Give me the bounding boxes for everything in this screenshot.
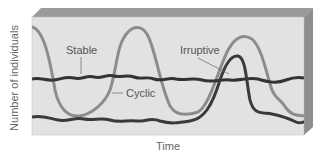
box-side-face (304, 8, 313, 135)
population-growth-diagram: Stable Cyclic Irruptive Time Number of i… (0, 0, 325, 157)
stable-label: Stable (66, 44, 97, 56)
x-axis-label: Time (156, 140, 180, 152)
cyclic-label: Cyclic (126, 87, 156, 99)
box-top-face (32, 8, 313, 17)
irruptive-label: Irruptive (180, 44, 220, 56)
y-axis-label: Number of individuals (8, 25, 20, 131)
box-front-face (32, 17, 304, 135)
